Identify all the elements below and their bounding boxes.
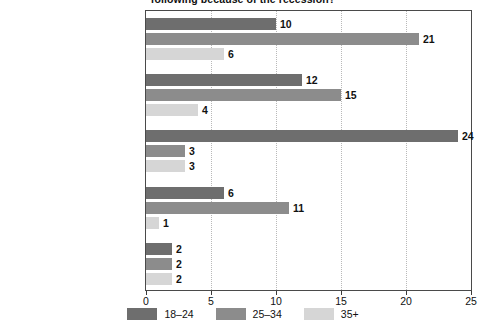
legend-item-25-34[interactable]: 25–34	[216, 308, 304, 320]
bar-value-label: 4	[202, 102, 208, 118]
bar[interactable]	[146, 202, 289, 214]
bar-group: Moved back in with parents6111	[146, 180, 471, 236]
bar-row: 2	[146, 243, 471, 255]
bar[interactable]	[146, 104, 198, 116]
bar-row: 21	[146, 33, 471, 45]
bar-row: 10	[146, 18, 471, 30]
bar-group: Moved in with a room mate2433	[146, 123, 471, 179]
bar-value-label: 12	[306, 72, 318, 88]
bar[interactable]	[146, 187, 224, 199]
legend-swatch-25-34	[216, 308, 246, 320]
bar-chart: following because of the recession? Post…	[0, 0, 486, 328]
bar-value-label: 6	[228, 185, 234, 201]
legend-swatch-35-plus	[304, 308, 334, 320]
bar-value-label: 6	[228, 46, 234, 62]
legend-label-18-24: 18–24	[164, 308, 193, 320]
x-tick-label: 25	[465, 295, 477, 307]
bar-row: 6	[146, 48, 471, 60]
legend-label-25-34: 25–34	[253, 308, 282, 320]
bar[interactable]	[146, 273, 172, 285]
bar-row: 12	[146, 74, 471, 86]
bar[interactable]	[146, 130, 458, 142]
bar[interactable]	[146, 33, 419, 45]
bar-row: 11	[146, 202, 471, 214]
legend-label-35-plus: 35+	[341, 308, 359, 320]
bar[interactable]	[146, 145, 185, 157]
bar-value-label: 3	[189, 143, 195, 159]
bar-row: 2	[146, 273, 471, 285]
bar-row: 2	[146, 258, 471, 270]
bar[interactable]	[146, 89, 341, 101]
bar-value-label: 24	[462, 128, 474, 144]
bar-group: Took in a boarder222	[146, 236, 471, 292]
bar[interactable]	[146, 48, 224, 60]
legend-item-35-plus[interactable]: 35+	[304, 308, 359, 320]
bar[interactable]	[146, 160, 185, 172]
bar-row: 3	[146, 145, 471, 157]
bar[interactable]	[146, 217, 159, 229]
bar-value-label: 2	[176, 256, 182, 272]
bar-row: 6	[146, 187, 471, 199]
x-tick-label: 15	[335, 295, 347, 307]
bar-value-label: 21	[423, 31, 435, 47]
chart-legend: 18–24 25–34 35+	[0, 308, 486, 320]
x-tick-label: 10	[270, 295, 282, 307]
bar-group: Postponed having a baby12154	[146, 67, 471, 123]
bar-group: Postponed getting married10216	[146, 11, 471, 67]
legend-item-18-24[interactable]: 18–24	[127, 308, 215, 320]
x-tick-label: 20	[400, 295, 412, 307]
bar-value-label: 2	[176, 241, 182, 257]
bar-row: 1	[146, 217, 471, 229]
bar-value-label: 2	[176, 271, 182, 287]
bar-row: 3	[146, 160, 471, 172]
bar-value-label: 15	[345, 87, 357, 103]
bar-row: 24	[146, 130, 471, 142]
bar-value-label: 10	[280, 16, 292, 32]
bar-value-label: 1	[163, 215, 169, 231]
x-tick-label: 0	[143, 295, 149, 307]
x-tick-label: 5	[208, 295, 214, 307]
bar[interactable]	[146, 258, 172, 270]
chart-title: following because of the recession?	[0, 0, 486, 5]
bar-row: 4	[146, 104, 471, 116]
legend-swatch-18-24	[127, 308, 157, 320]
bar-row: 15	[146, 89, 471, 101]
bar[interactable]	[146, 243, 172, 255]
bar-value-label: 11	[293, 200, 304, 216]
bar-value-label: 3	[189, 158, 195, 174]
bar[interactable]	[146, 18, 276, 30]
bar[interactable]	[146, 74, 302, 86]
plot-area: Postponed getting married10216Postponed …	[145, 10, 472, 291]
